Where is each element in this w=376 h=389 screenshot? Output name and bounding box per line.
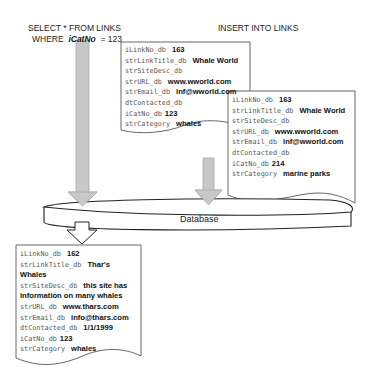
field-row: strEmail_dbinf@wworld.com (232, 137, 345, 148)
field-row: iLinkNo_db162 (20, 249, 138, 260)
field-row: iCatNo_db123 (125, 109, 238, 120)
field-row: strURL_dbwww.wworld.com (232, 127, 345, 138)
field-row: strCategorymarine parks (232, 169, 345, 180)
record-inserted: iLinkNo_db163 strLinkTitle_dbWhale World… (232, 95, 345, 180)
field-row: strLinkTitle_dbThar's Whales (20, 260, 138, 281)
select-query-field: iCatNo (68, 34, 95, 44)
select-query: SELECT * FROM LINKS WHERE iCatNo = 123 (28, 23, 122, 45)
field-row: strURL_dbwww.thars.com (20, 302, 138, 313)
field-row: dtContacted_db1/1/1999 (20, 323, 138, 334)
field-row: dtContacted_db (125, 98, 238, 109)
select-query-line2: WHERE iCatNo = 123 (28, 34, 122, 45)
field-row: strURL_dbwww.wworld.com (125, 77, 238, 88)
select-arrow (68, 40, 97, 206)
field-row: strSiteDesc_dbthis site has information … (20, 281, 138, 302)
field-row: strCategorywhales (20, 344, 138, 355)
field-row: strLinkTitle_dbWhale World (125, 56, 238, 67)
field-row: strSiteDesc_db (232, 116, 345, 127)
field-row: iLinkNo_db163 (125, 45, 238, 56)
record-result: iLinkNo_db162 strLinkTitle_dbThar's Whal… (20, 249, 138, 355)
select-query-line1: SELECT * FROM LINKS (28, 23, 122, 34)
field-row: iCatNo_db123 (20, 334, 138, 345)
field-row: iLinkNo_db163 (232, 95, 345, 106)
database-label: Database (180, 214, 219, 224)
field-row: strEmail_dbinfo@thars.com (20, 313, 138, 324)
field-row: iCatNo_db214 (232, 159, 345, 170)
field-row: strCategorywhales (125, 119, 238, 130)
record-existing: iLinkNo_db163 strLinkTitle_dbWhale World… (125, 45, 238, 130)
field-row: dtContacted_db (232, 148, 345, 159)
field-row: strSiteDesc_db (125, 66, 238, 77)
insert-query: INSERT INTO LINKS (218, 23, 298, 34)
field-row: strLinkTitle_dbWhale World (232, 106, 345, 117)
field-row: strEmail_dbinf@wworld.com (125, 87, 238, 98)
